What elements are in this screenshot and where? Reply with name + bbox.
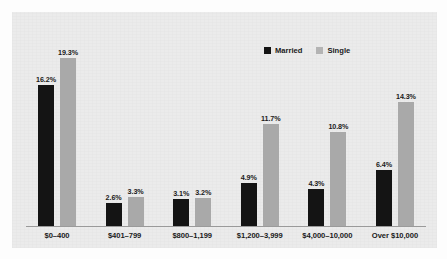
bar-column[interactable]: 11.7% [263, 12, 279, 226]
x-axis-baseline [26, 226, 426, 227]
category-label: Over $10,000 [364, 231, 426, 240]
bar-married[interactable] [241, 183, 257, 226]
bar-value-label: 19.3% [58, 48, 78, 57]
bar-column[interactable]: 6.4% [376, 12, 392, 226]
bar-group: 4.3%10.8% [296, 12, 358, 226]
bar-married[interactable] [106, 203, 122, 226]
bar-value-label: 11.7% [261, 114, 280, 123]
bar-value-label: 6.4% [376, 160, 392, 169]
chart-panel: Married Single 16.2%19.3%2.6%3.3%3.1%3.2… [12, 12, 437, 248]
bar-group: 6.4%14.3% [364, 12, 426, 226]
bar-column[interactable]: 4.3% [308, 12, 324, 226]
bar-column[interactable]: 3.1% [173, 12, 189, 226]
bar-value-label: 3.3% [128, 187, 144, 196]
bar-column[interactable]: 10.8% [330, 12, 346, 226]
bar-single[interactable] [330, 132, 346, 226]
bar-column[interactable]: 3.2% [195, 12, 211, 226]
bar-value-label: 4.9% [241, 173, 257, 182]
bar-group: 2.6%3.3% [94, 12, 156, 226]
bar-married[interactable] [38, 85, 54, 226]
bar-column[interactable]: 16.2% [38, 12, 54, 226]
category-label: $4,000–10,000 [296, 231, 358, 240]
bar-single[interactable] [128, 197, 144, 226]
bar-single[interactable] [195, 198, 211, 226]
bar-value-label: 3.2% [195, 188, 211, 197]
bar-married[interactable] [376, 170, 392, 226]
category-label: $800–1,199 [161, 231, 223, 240]
bar-column[interactable]: 4.9% [241, 12, 257, 226]
bar-column[interactable]: 14.3% [398, 12, 414, 226]
bar-group: 16.2%19.3% [26, 12, 88, 226]
bar-group: 4.9%11.7% [229, 12, 291, 226]
bar-value-label: 4.3% [308, 179, 324, 188]
bar-value-label: 10.8% [328, 122, 348, 131]
bar-value-label: 3.1% [173, 189, 189, 198]
category-axis-labels: $0–400$401–799$800–1,199$1,200–3,999$4,0… [26, 231, 426, 240]
bar-group: 3.1%3.2% [161, 12, 223, 226]
plot-area: Married Single 16.2%19.3%2.6%3.3%3.1%3.2… [12, 12, 437, 248]
category-label: $1,200–3,999 [229, 231, 291, 240]
bar-married[interactable] [308, 189, 324, 226]
bar-single[interactable] [263, 124, 279, 226]
bar-value-label: 16.2% [36, 75, 56, 84]
category-label: $0–400 [26, 231, 88, 240]
bar-value-label: 14.3% [396, 92, 416, 101]
page-root: Married Single 16.2%19.3%2.6%3.3%3.1%3.2… [0, 0, 447, 259]
bar-married[interactable] [173, 199, 189, 226]
bar-single[interactable] [60, 58, 76, 226]
bar-column[interactable]: 2.6% [106, 12, 122, 226]
bar-value-label: 2.6% [106, 193, 122, 202]
bar-column[interactable]: 3.3% [128, 12, 144, 226]
bar-column[interactable]: 19.3% [60, 12, 76, 226]
category-label: $401–799 [94, 231, 156, 240]
bar-groups: 16.2%19.3%2.6%3.3%3.1%3.2%4.9%11.7%4.3%1… [26, 12, 426, 226]
bar-single[interactable] [398, 102, 414, 226]
